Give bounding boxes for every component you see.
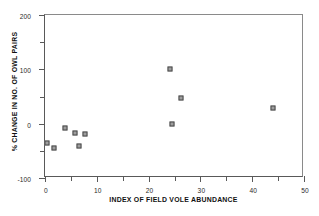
y-axis-tick: 200: [39, 15, 45, 16]
x-axis-minor-tick: [278, 176, 279, 181]
data-point-marker: [270, 105, 275, 110]
y-axis-tick-label: 0: [27, 121, 31, 128]
data-point-marker: [45, 140, 50, 145]
x-axis-tick: 30: [200, 176, 201, 182]
x-axis-tick: 20: [149, 176, 150, 182]
data-point-marker: [73, 130, 78, 135]
plot-area: -1000100200 01020304050: [44, 14, 303, 177]
data-point-marker: [169, 121, 174, 126]
x-axis-tick: 50: [304, 176, 305, 182]
x-axis-tick-label: 10: [94, 187, 102, 194]
y-axis-tick-label: 100: [20, 67, 31, 74]
data-point-marker: [77, 144, 82, 149]
x-axis-tick-label: 20: [146, 187, 154, 194]
data-point-marker: [63, 126, 68, 131]
x-axis-tick: 0: [45, 176, 46, 182]
y-axis-minor-tick: [40, 42, 45, 43]
data-point-marker: [51, 145, 56, 150]
y-axis-tick-label: 200: [20, 13, 31, 20]
y-axis-title: % CHANGE IN NO. OF OWL PAIRS: [11, 12, 18, 172]
x-axis-minor-tick: [226, 176, 227, 181]
data-point-marker: [82, 131, 87, 136]
y-axis-tick: 100: [39, 69, 45, 70]
x-axis-minor-tick: [71, 176, 72, 181]
x-axis-minor-tick: [175, 176, 176, 181]
x-axis-tick-label: 30: [198, 187, 206, 194]
x-axis-tick-label: 50: [301, 187, 309, 194]
x-axis-minor-tick: [123, 176, 124, 181]
data-point-marker: [179, 95, 184, 100]
y-axis-tick-label: -100: [17, 176, 31, 183]
scatter-chart-figure: -1000100200 01020304050 INDEX OF FIELD V…: [0, 0, 319, 216]
x-axis-tick: 10: [97, 176, 98, 182]
y-axis-tick: 0: [39, 124, 45, 125]
x-axis-tick-label: 0: [44, 187, 48, 194]
x-axis-tick-label: 40: [249, 187, 257, 194]
y-axis-minor-tick: [40, 151, 45, 152]
y-axis-minor-tick: [40, 97, 45, 98]
data-point-marker: [167, 66, 172, 71]
x-axis-tick: 40: [252, 176, 253, 182]
x-axis-title: INDEX OF FIELD VOLE ABUNDANCE: [44, 196, 303, 203]
